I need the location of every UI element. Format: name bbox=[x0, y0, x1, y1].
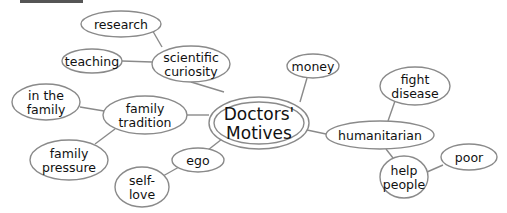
node-teaching: teaching bbox=[62, 49, 122, 73]
node-label: love bbox=[129, 187, 156, 202]
node-label: Doctors' bbox=[224, 104, 294, 124]
node-selflove: self-love bbox=[115, 167, 169, 207]
connector-line bbox=[300, 78, 307, 102]
node-label: family bbox=[126, 101, 165, 116]
connector-line bbox=[388, 101, 395, 121]
connector-line bbox=[427, 165, 443, 172]
connector-line bbox=[122, 61, 152, 62]
connector-line bbox=[307, 130, 326, 134]
node-label: scientific bbox=[163, 50, 219, 65]
node-poor: poor bbox=[441, 144, 497, 170]
node-fight: fightdisease bbox=[380, 67, 450, 105]
node-label: fight bbox=[401, 72, 430, 87]
node-label: family bbox=[27, 102, 66, 117]
node-label: tradition bbox=[118, 115, 171, 130]
mind-map: scientificcuriosityresearchteachingmoney… bbox=[0, 0, 507, 213]
node-label: pressure bbox=[42, 160, 96, 175]
node-label: ego bbox=[186, 153, 209, 168]
node-research: research bbox=[81, 11, 161, 37]
node-label: money bbox=[292, 59, 335, 74]
node-label: family bbox=[50, 146, 89, 161]
node-label: Motives bbox=[226, 123, 292, 143]
node-label: self- bbox=[129, 173, 155, 188]
node-label: help bbox=[390, 163, 417, 178]
node-money: money bbox=[287, 54, 339, 78]
node-label: teaching bbox=[65, 54, 119, 69]
node-label: research bbox=[94, 17, 148, 32]
node-label: people bbox=[383, 177, 426, 192]
nodes: scientificcuriosityresearchteachingmoney… bbox=[12, 11, 497, 207]
node-label: humanitarian bbox=[338, 128, 422, 143]
node-label: disease bbox=[391, 86, 439, 101]
connector-line bbox=[95, 129, 115, 144]
node-humanitarian: humanitarian bbox=[326, 121, 434, 149]
node-inthefamily: in thefamily bbox=[12, 84, 80, 120]
node-tradition: familytradition bbox=[103, 96, 187, 134]
connector-line bbox=[386, 149, 393, 158]
node-label: poor bbox=[455, 150, 484, 165]
connector-line bbox=[191, 82, 224, 92]
node-pressure: familypressure bbox=[30, 140, 108, 180]
node-label: in the bbox=[28, 88, 64, 103]
node-label: curiosity bbox=[164, 64, 218, 79]
connector-line bbox=[80, 107, 104, 111]
central-node: Doctors'Motives bbox=[209, 97, 309, 149]
node-help: helppeople bbox=[380, 156, 428, 198]
node-scientific: scientificcuriosity bbox=[152, 46, 230, 82]
node-ego: ego bbox=[172, 148, 224, 172]
connector-line bbox=[208, 139, 222, 150]
connector-line bbox=[163, 167, 179, 176]
